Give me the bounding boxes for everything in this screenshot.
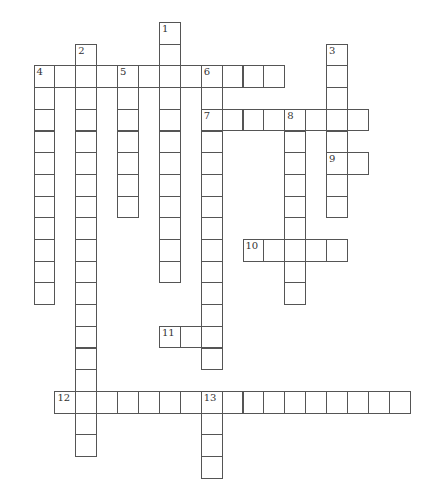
crossword-cell[interactable] <box>159 217 181 240</box>
crossword-cell[interactable] <box>34 87 56 110</box>
crossword-cell[interactable] <box>75 196 97 219</box>
crossword-cell[interactable] <box>34 131 56 154</box>
crossword-cell[interactable] <box>159 152 181 175</box>
crossword-cell[interactable] <box>305 109 327 132</box>
crossword-cell[interactable] <box>96 391 118 414</box>
crossword-cell[interactable] <box>284 282 306 305</box>
crossword-cell[interactable] <box>201 131 223 154</box>
crossword-cell[interactable] <box>138 65 160 88</box>
crossword-cell[interactable] <box>75 217 97 240</box>
crossword-cell[interactable] <box>263 109 285 132</box>
crossword-cell[interactable] <box>201 434 223 457</box>
crossword-cell[interactable] <box>34 282 56 305</box>
crossword-cell[interactable] <box>117 109 139 132</box>
crossword-cell[interactable] <box>284 391 306 414</box>
crossword-cell[interactable] <box>326 65 348 88</box>
crossword-cell[interactable] <box>75 131 97 154</box>
crossword-cell[interactable] <box>284 217 306 240</box>
crossword-cell[interactable] <box>326 239 348 262</box>
crossword-cell[interactable] <box>117 87 139 110</box>
crossword-cell[interactable] <box>34 174 56 197</box>
crossword-cell[interactable] <box>159 239 181 262</box>
crossword-cell[interactable] <box>75 326 97 349</box>
crossword-cell[interactable] <box>54 65 76 88</box>
crossword-cell[interactable] <box>243 65 265 88</box>
crossword-cell[interactable] <box>75 152 97 175</box>
crossword-cell[interactable] <box>201 456 223 479</box>
crossword-cell[interactable] <box>75 174 97 197</box>
crossword-cell[interactable] <box>222 109 244 132</box>
crossword-cell[interactable] <box>159 261 181 284</box>
crossword-cell[interactable]: 2 <box>75 44 97 67</box>
crossword-cell[interactable] <box>159 131 181 154</box>
crossword-cell[interactable]: 1 <box>159 22 181 45</box>
crossword-cell[interactable] <box>305 239 327 262</box>
crossword-cell[interactable]: 4 <box>34 65 56 88</box>
crossword-cell[interactable] <box>222 391 244 414</box>
crossword-cell[interactable] <box>75 261 97 284</box>
crossword-cell[interactable] <box>159 44 181 67</box>
crossword-cell[interactable] <box>201 87 223 110</box>
crossword-cell[interactable] <box>117 196 139 219</box>
crossword-cell[interactable] <box>159 87 181 110</box>
crossword-cell[interactable] <box>117 131 139 154</box>
crossword-cell[interactable] <box>201 326 223 349</box>
crossword-cell[interactable] <box>201 152 223 175</box>
crossword-cell[interactable] <box>284 261 306 284</box>
crossword-cell[interactable] <box>326 131 348 154</box>
crossword-cell[interactable]: 12 <box>54 391 76 414</box>
crossword-cell[interactable] <box>389 391 411 414</box>
crossword-cell[interactable] <box>305 391 327 414</box>
crossword-cell[interactable] <box>326 174 348 197</box>
crossword-cell[interactable] <box>263 65 285 88</box>
crossword-cell[interactable] <box>326 391 348 414</box>
crossword-cell[interactable]: 6 <box>201 65 223 88</box>
crossword-cell[interactable] <box>75 391 97 414</box>
crossword-cell[interactable] <box>159 196 181 219</box>
crossword-cell[interactable] <box>75 87 97 110</box>
crossword-cell[interactable] <box>201 174 223 197</box>
crossword-cell[interactable] <box>347 152 369 175</box>
crossword-cell[interactable] <box>75 282 97 305</box>
crossword-cell[interactable] <box>75 65 97 88</box>
crossword-cell[interactable] <box>263 391 285 414</box>
crossword-cell[interactable]: 11 <box>159 326 181 349</box>
crossword-cell[interactable] <box>284 131 306 154</box>
crossword-cell[interactable] <box>117 391 139 414</box>
crossword-cell[interactable] <box>201 413 223 436</box>
crossword-cell[interactable] <box>347 391 369 414</box>
crossword-cell[interactable] <box>96 65 118 88</box>
crossword-cell[interactable] <box>117 152 139 175</box>
crossword-cell[interactable] <box>75 109 97 132</box>
crossword-cell[interactable] <box>75 304 97 327</box>
crossword-cell[interactable] <box>180 391 202 414</box>
crossword-cell[interactable] <box>75 239 97 262</box>
crossword-cell[interactable] <box>284 239 306 262</box>
crossword-cell[interactable] <box>34 152 56 175</box>
crossword-cell[interactable] <box>34 196 56 219</box>
crossword-cell[interactable]: 3 <box>326 44 348 67</box>
crossword-cell[interactable] <box>34 239 56 262</box>
crossword-cell[interactable] <box>243 109 265 132</box>
crossword-cell[interactable] <box>347 109 369 132</box>
crossword-cell[interactable] <box>180 65 202 88</box>
crossword-cell[interactable] <box>138 391 160 414</box>
crossword-cell[interactable] <box>368 391 390 414</box>
crossword-cell[interactable] <box>201 261 223 284</box>
crossword-cell[interactable]: 5 <box>117 65 139 88</box>
crossword-cell[interactable] <box>201 282 223 305</box>
crossword-cell[interactable]: 9 <box>326 152 348 175</box>
crossword-cell[interactable] <box>201 239 223 262</box>
crossword-cell[interactable] <box>222 65 244 88</box>
crossword-cell[interactable] <box>284 152 306 175</box>
crossword-cell[interactable] <box>159 109 181 132</box>
crossword-cell[interactable] <box>243 391 265 414</box>
crossword-cell[interactable] <box>201 348 223 371</box>
crossword-cell[interactable] <box>284 174 306 197</box>
crossword-cell[interactable] <box>75 348 97 371</box>
crossword-cell[interactable]: 10 <box>243 239 265 262</box>
crossword-cell[interactable] <box>201 217 223 240</box>
crossword-cell[interactable] <box>284 196 306 219</box>
crossword-cell[interactable] <box>75 434 97 457</box>
crossword-cell[interactable] <box>75 413 97 436</box>
